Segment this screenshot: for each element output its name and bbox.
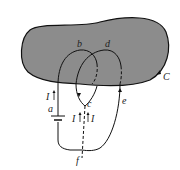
surface-c (21, 18, 168, 86)
arrow-up-icon (87, 112, 90, 115)
diagram: b d C a c e f I I I (0, 0, 180, 170)
label-a: a (48, 103, 53, 114)
label-e: e (122, 95, 127, 106)
arrow-up-icon (118, 88, 122, 92)
arrow-up-icon (79, 112, 82, 115)
label-f: f (76, 155, 80, 166)
label-I-left: I (45, 91, 50, 102)
label-I-mid-right: I (90, 113, 95, 124)
label-I-mid-left: I (71, 113, 76, 124)
arrow-up-icon (53, 90, 56, 93)
label-C: C (163, 71, 170, 82)
label-b: b (77, 38, 82, 49)
label-c: c (87, 98, 92, 109)
